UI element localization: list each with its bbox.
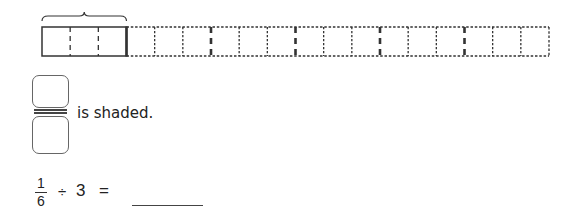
dividend-denominator: 6	[34, 194, 48, 209]
group-brace	[42, 12, 127, 21]
division-sign: ÷	[58, 183, 66, 200]
is-shaded-label: is shaded.	[77, 104, 153, 122]
numerator-input-box[interactable]	[32, 75, 69, 108]
fraction-bar-line	[34, 109, 67, 111]
divisor: 3	[76, 181, 85, 201]
fraction-bar-line	[34, 112, 67, 114]
equals-sign: =	[99, 181, 109, 201]
denominator-input-box[interactable]	[32, 116, 69, 154]
highlighted-group-outline	[42, 27, 127, 56]
dividend-numerator: 1	[34, 176, 48, 191]
answer-blank[interactable]	[132, 205, 203, 206]
dividend-fraction: 1 6	[34, 176, 48, 209]
fraction-bar-model	[0, 0, 578, 70]
